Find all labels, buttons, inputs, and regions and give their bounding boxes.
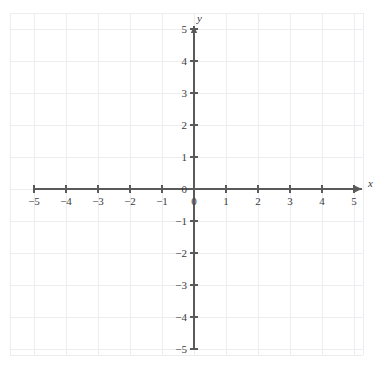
y-tick-label: 3 (182, 88, 188, 99)
y-tick-label: −5 (175, 344, 187, 355)
y-tick-label: 4 (182, 56, 188, 67)
y-axis-label: y (197, 13, 202, 24)
x-tick-label: −4 (60, 196, 72, 207)
x-axis-label: x (368, 178, 373, 189)
x-tick-label: 0 (191, 196, 197, 207)
x-tick-label: 5 (351, 196, 357, 207)
y-tick-label: 2 (182, 120, 188, 131)
x-tick-label: −5 (28, 196, 40, 207)
x-tick-label: 1 (223, 196, 229, 207)
coordinate-plane-figure: −5−4−3−2−1012345543210−1−2−3−4−5 x y (0, 0, 385, 369)
x-tick-label: −2 (124, 196, 136, 207)
y-tick-label: 1 (182, 152, 188, 163)
x-axis-arrowhead (355, 186, 362, 192)
x-tick-label: 4 (319, 196, 325, 207)
x-tick-label: −3 (92, 196, 104, 207)
y-tick-label: 0 (182, 184, 188, 195)
y-tick-label: −1 (175, 216, 187, 227)
x-tick-label: 3 (287, 196, 293, 207)
coordinate-plane-svg (0, 0, 385, 369)
y-tick-label: −4 (175, 312, 187, 323)
x-tick-label: −1 (156, 196, 168, 207)
axes (34, 26, 362, 349)
y-tick-label: −3 (175, 280, 187, 291)
y-tick-label: 5 (182, 24, 188, 35)
y-tick-label: −2 (175, 248, 187, 259)
x-tick-label: 2 (255, 196, 261, 207)
